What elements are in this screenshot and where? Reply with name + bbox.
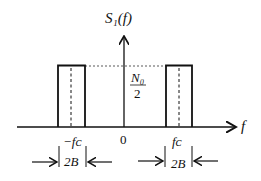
x-axis-label: f xyxy=(241,119,245,134)
level-label-numerator: N₀ xyxy=(131,71,144,84)
level-label-denominator: 2 xyxy=(134,87,141,100)
pos-center-freq-label: fᴄ xyxy=(172,135,181,148)
left-bandwidth-label: 2B xyxy=(64,155,78,168)
origin-label: 0 xyxy=(120,133,127,146)
psd-diagram: S₁(f) f N₀ 2 0 −fᴄ fᴄ 2B 2B xyxy=(0,0,261,181)
diagram-graphics xyxy=(0,0,261,181)
neg-center-freq-label: −fᴄ xyxy=(63,135,81,148)
right-bandwidth-label: 2B xyxy=(171,157,185,170)
y-axis-label: S₁(f) xyxy=(105,11,132,26)
